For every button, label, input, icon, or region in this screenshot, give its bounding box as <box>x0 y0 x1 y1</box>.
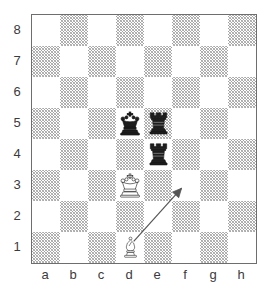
board-square-d4[interactable] <box>116 139 144 170</box>
rank-label-3: 3 <box>8 169 26 200</box>
board-square-a6[interactable] <box>32 77 60 108</box>
board-square-g3[interactable] <box>200 170 228 201</box>
file-label-a: a <box>31 266 59 284</box>
board-square-g2[interactable] <box>200 201 228 232</box>
file-label-b: b <box>59 266 87 284</box>
file-label-g: g <box>199 266 227 284</box>
board-square-h1[interactable] <box>228 232 256 263</box>
board-square-c5[interactable] <box>88 108 116 139</box>
rank-label-6: 6 <box>8 76 26 107</box>
board-square-b3[interactable] <box>60 170 88 201</box>
chess-board[interactable] <box>31 14 257 264</box>
rank-label-5: 5 <box>8 107 26 138</box>
board-square-e3[interactable] <box>144 170 172 201</box>
rank-label-8: 8 <box>8 14 26 45</box>
board-square-b7[interactable] <box>60 46 88 77</box>
rank-label-7: 7 <box>8 45 26 76</box>
board-square-f5[interactable] <box>172 108 200 139</box>
board-square-f4[interactable] <box>172 139 200 170</box>
board-square-c7[interactable] <box>88 46 116 77</box>
board-square-e6[interactable] <box>144 77 172 108</box>
file-label-f: f <box>171 266 199 284</box>
board-square-h7[interactable] <box>228 46 256 77</box>
rank-label-2: 2 <box>8 200 26 231</box>
black-rook-e4[interactable] <box>144 139 172 170</box>
board-square-g8[interactable] <box>200 15 228 46</box>
board-square-g4[interactable] <box>200 139 228 170</box>
board-square-b5[interactable] <box>60 108 88 139</box>
board-square-c6[interactable] <box>88 77 116 108</box>
board-square-f7[interactable] <box>172 46 200 77</box>
board-square-h8[interactable] <box>228 15 256 46</box>
board-square-e7[interactable] <box>144 46 172 77</box>
board-square-c1[interactable] <box>88 232 116 263</box>
file-label-d: d <box>115 266 143 284</box>
file-label-h: h <box>227 266 255 284</box>
board-square-c8[interactable] <box>88 15 116 46</box>
board-square-d6[interactable] <box>116 77 144 108</box>
board-square-g1[interactable] <box>200 232 228 263</box>
board-square-g7[interactable] <box>200 46 228 77</box>
board-square-a1[interactable] <box>32 232 60 263</box>
black-rook-e5[interactable] <box>144 108 172 139</box>
board-square-h3[interactable] <box>228 170 256 201</box>
board-square-h4[interactable] <box>228 139 256 170</box>
chess-diagram: 8 7 6 5 4 3 2 1 a b c d e f g h <box>0 0 267 294</box>
file-label-e: e <box>143 266 171 284</box>
rank-label-4: 4 <box>8 138 26 169</box>
board-square-f6[interactable] <box>172 77 200 108</box>
board-square-f1[interactable] <box>172 232 200 263</box>
rank-label-1: 1 <box>8 231 26 262</box>
board-square-a7[interactable] <box>32 46 60 77</box>
board-square-a5[interactable] <box>32 108 60 139</box>
board-square-f2[interactable] <box>172 201 200 232</box>
board-square-a8[interactable] <box>32 15 60 46</box>
board-square-a4[interactable] <box>32 139 60 170</box>
board-square-d2[interactable] <box>116 201 144 232</box>
board-square-a2[interactable] <box>32 201 60 232</box>
board-square-g5[interactable] <box>200 108 228 139</box>
white-bishop-d1[interactable] <box>116 232 144 263</box>
board-square-b4[interactable] <box>60 139 88 170</box>
board-square-h6[interactable] <box>228 77 256 108</box>
board-square-b2[interactable] <box>60 201 88 232</box>
board-square-e2[interactable] <box>144 201 172 232</box>
board-square-b8[interactable] <box>60 15 88 46</box>
black-king-d5[interactable] <box>116 108 144 139</box>
board-square-g6[interactable] <box>200 77 228 108</box>
board-square-b6[interactable] <box>60 77 88 108</box>
board-square-e1[interactable] <box>144 232 172 263</box>
board-square-f8[interactable] <box>172 15 200 46</box>
file-label-c: c <box>87 266 115 284</box>
board-square-h2[interactable] <box>228 201 256 232</box>
board-square-a3[interactable] <box>32 170 60 201</box>
white-king-d3[interactable] <box>116 170 144 201</box>
board-square-b1[interactable] <box>60 232 88 263</box>
board-square-c4[interactable] <box>88 139 116 170</box>
board-square-c3[interactable] <box>88 170 116 201</box>
board-square-c2[interactable] <box>88 201 116 232</box>
board-square-e8[interactable] <box>144 15 172 46</box>
board-square-d8[interactable] <box>116 15 144 46</box>
board-square-d7[interactable] <box>116 46 144 77</box>
board-square-h5[interactable] <box>228 108 256 139</box>
board-square-f3[interactable] <box>172 170 200 201</box>
